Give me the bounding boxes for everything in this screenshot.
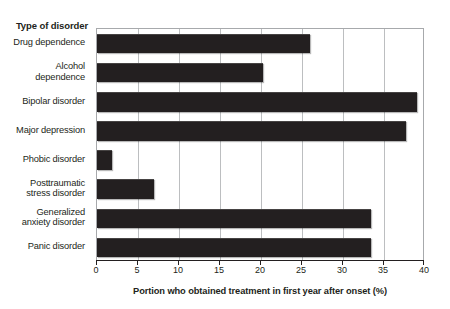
- bar-chart-figure: Type of disorder Drug dependenceAlcohold…: [0, 0, 450, 309]
- x-axis-tick-labels: 0510152025303540: [96, 265, 424, 279]
- bar: [97, 34, 310, 54]
- category-label-line: Bipolar disorder: [0, 96, 85, 107]
- category-label-line: Posttraumatic: [0, 178, 85, 189]
- x-axis-tick-label: 25: [296, 265, 306, 275]
- x-axis-title: Portion who obtained treatment in first …: [96, 286, 424, 296]
- bar: [97, 179, 154, 199]
- category-label-line: Alcohol: [0, 61, 85, 72]
- x-axis-tick-label: 40: [419, 265, 429, 275]
- x-axis-tick-label: 0: [93, 265, 98, 275]
- category-axis-labels: Drug dependenceAlcoholdependenceBipolar …: [0, 28, 89, 261]
- bar: [97, 238, 371, 258]
- category-label: Major depression: [0, 125, 85, 136]
- bar: [97, 63, 263, 83]
- bars-layer: [97, 29, 423, 260]
- category-label-line: Drug dependence: [0, 37, 85, 48]
- x-axis-tick-label: 30: [337, 265, 347, 275]
- category-label-line: Panic disorder: [0, 241, 85, 252]
- category-label: Panic disorder: [0, 241, 85, 252]
- x-axis-tick-label: 10: [173, 265, 183, 275]
- category-label: Phobic disorder: [0, 154, 85, 165]
- x-axis-tick-label: 15: [214, 265, 224, 275]
- category-label-line: Major depression: [0, 125, 85, 136]
- x-axis-tick-label: 35: [378, 265, 388, 275]
- category-label: Bipolar disorder: [0, 96, 85, 107]
- category-label-line: stress disorder: [0, 188, 85, 199]
- bar: [97, 150, 112, 170]
- category-label: Alcoholdependence: [0, 61, 85, 82]
- category-label-line: Generalized: [0, 207, 85, 218]
- bar: [97, 92, 417, 112]
- category-label: Posttraumaticstress disorder: [0, 178, 85, 199]
- category-label-line: dependence: [0, 72, 85, 83]
- plot-area: [96, 28, 424, 261]
- category-label: Generalizedanxiety disorder: [0, 207, 85, 228]
- category-label-line: Phobic disorder: [0, 154, 85, 165]
- bar: [97, 121, 406, 141]
- bar: [97, 209, 371, 229]
- category-label-line: anxiety disorder: [0, 217, 85, 228]
- x-axis-tick-label: 5: [134, 265, 139, 275]
- category-label: Drug dependence: [0, 37, 85, 48]
- x-axis-tick-label: 20: [255, 265, 265, 275]
